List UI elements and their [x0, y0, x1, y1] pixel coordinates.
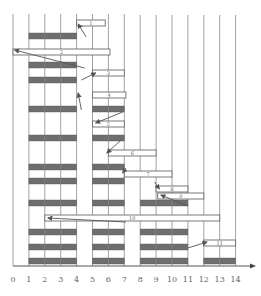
filled-bar — [29, 33, 77, 39]
x-tick-label: 0 — [10, 275, 15, 284]
diagram-canvas: 1234567891011 01234567891011121314 — [0, 0, 261, 296]
x-tick-label: 2 — [42, 275, 47, 284]
item-box-label: 3 — [107, 70, 110, 76]
x-tick-label: 11 — [183, 275, 193, 284]
x-axis-arrowhead-icon — [250, 264, 256, 269]
filled-bar — [29, 164, 77, 170]
filled-bar — [29, 229, 77, 235]
filled-bar — [29, 200, 77, 206]
x-tick-label: 13 — [215, 275, 225, 284]
filled-bar — [29, 77, 77, 83]
x-tick-label: 6 — [106, 275, 111, 284]
item-box-label: 9 — [179, 193, 182, 199]
move-arrow — [81, 73, 95, 80]
filled-bar — [140, 244, 188, 250]
x-tick-label: 3 — [58, 275, 63, 284]
x-tick-label: 4 — [74, 275, 79, 284]
item-box-label: 6 — [131, 150, 134, 156]
item-box-label: 7 — [147, 171, 150, 177]
filled-bar — [29, 135, 77, 141]
x-tick-label: 10 — [167, 275, 177, 284]
x-tick-label: 9 — [154, 275, 159, 284]
item-box-label: 10 — [129, 215, 135, 221]
filled-bar — [140, 229, 188, 235]
item-box-label: 2 — [60, 49, 63, 55]
item-box-label: 4 — [108, 92, 111, 98]
x-tick-label: 7 — [122, 275, 127, 284]
x-tick-label: 8 — [138, 275, 143, 284]
item-box-label: 1 — [89, 20, 92, 26]
x-tick-label: 1 — [26, 275, 31, 284]
item-box-label: 5 — [107, 121, 110, 127]
filled-bar — [29, 178, 77, 184]
diagram-svg: 1234567891011 — [0, 0, 261, 296]
move-arrow — [78, 93, 81, 110]
x-tick-label: 5 — [90, 275, 95, 284]
x-tick-label: 14 — [231, 275, 241, 284]
item-box-label: 11 — [217, 240, 223, 246]
filled-bar — [29, 106, 77, 112]
filled-bar — [29, 258, 77, 264]
filled-bar — [140, 258, 188, 264]
filled-bar — [29, 244, 77, 250]
item-box-label: 8 — [170, 186, 173, 192]
x-tick-label: 12 — [199, 275, 209, 284]
filled-bar — [29, 62, 77, 68]
